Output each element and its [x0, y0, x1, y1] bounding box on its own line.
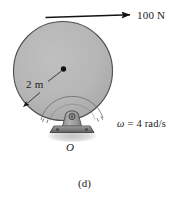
support-base-plate [50, 126, 94, 133]
radius-label: 2 m [26, 79, 43, 90]
figure-caption: (d) [78, 178, 91, 189]
omega-value: = 4 rad/s [125, 118, 166, 129]
figure-graphics [0, 0, 182, 201]
force-label: 100 N [137, 10, 165, 21]
figure-panel: 100 N 2 m ω = 4 rad/s O (d) [0, 0, 182, 201]
center-dot [61, 66, 66, 71]
force-arrow [46, 15, 131, 18]
pivot-point-label: O [66, 142, 74, 153]
omega-symbol: ω [117, 118, 125, 129]
angular-velocity-label: ω = 4 rad/s [117, 119, 166, 130]
